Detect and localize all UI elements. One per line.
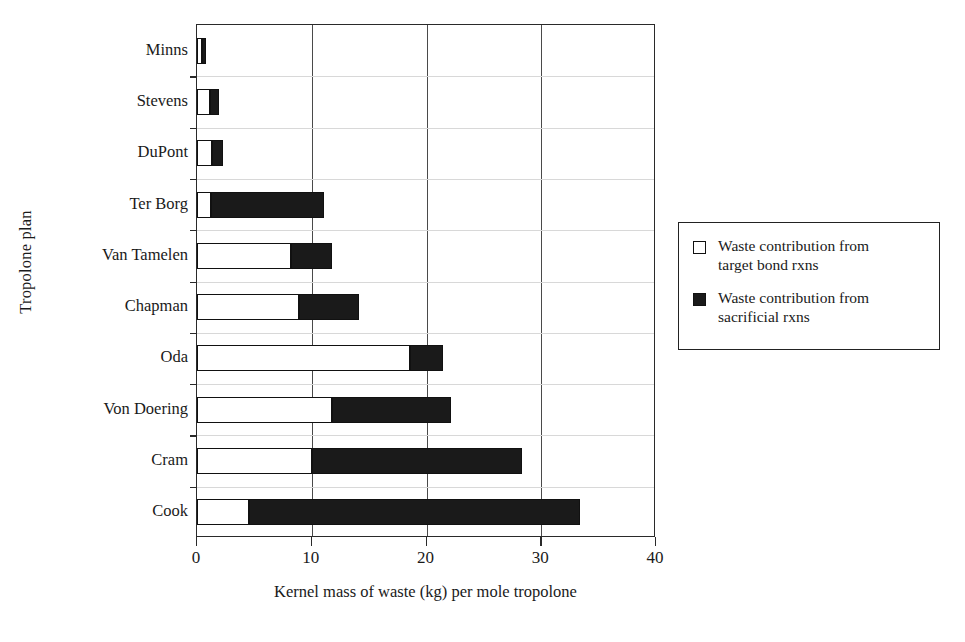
- bar-segment-target-bond: [197, 345, 410, 371]
- y-tick-minor: [190, 128, 197, 129]
- bar-segment-target-bond: [197, 89, 210, 115]
- bar-segment-target-bond: [197, 499, 249, 525]
- legend-label-target-bond: Waste contribution from target bond rxns: [718, 237, 869, 275]
- y-axis-label-von-doering: Von Doering: [60, 401, 188, 418]
- y-axis-label-cram: Cram: [60, 452, 188, 469]
- y-axis-label-van-tamelen: Van Tamelen: [60, 247, 188, 264]
- bar-segment-target-bond: [197, 140, 212, 166]
- category-separator: [197, 384, 654, 385]
- bar-segment-target-bond: [197, 243, 291, 269]
- legend-label-line1: Waste contribution from: [718, 237, 869, 254]
- x-tick-label-20: 20: [417, 548, 434, 568]
- y-tick-minor: [190, 487, 197, 488]
- x-tick-label-10: 10: [302, 548, 319, 568]
- bar-segment-target-bond: [197, 397, 332, 423]
- legend-item-target-bond: Waste contribution from target bond rxns: [679, 237, 939, 275]
- legend-label-line1: Waste contribution from: [718, 289, 869, 306]
- bar-segment-sacrificial: [410, 345, 442, 371]
- category-separator: [197, 435, 654, 436]
- y-axis-title: Tropolone plan: [16, 192, 36, 332]
- x-tick-40: [655, 537, 656, 546]
- x-tick-label-40: 40: [647, 548, 664, 568]
- y-axis-label-ter-borg: Ter Borg: [60, 195, 188, 212]
- x-tick-label-0: 0: [192, 548, 201, 568]
- chart-legend: Waste contribution from target bond rxns…: [678, 222, 940, 350]
- bar-segment-sacrificial: [211, 192, 325, 218]
- bar-segment-target-bond: [197, 448, 312, 474]
- bar-segment-sacrificial: [312, 448, 522, 474]
- category-separator: [197, 282, 654, 283]
- y-tick-minor: [190, 333, 197, 334]
- category-separator: [197, 333, 654, 334]
- y-tick-minor: [190, 435, 197, 436]
- open-square-icon: [693, 241, 706, 254]
- bar-segment-sacrificial: [202, 38, 207, 64]
- bar-segment-sacrificial: [212, 140, 223, 166]
- x-axis-tick-labels: 010203040: [196, 548, 655, 572]
- x-axis-title: Kernel mass of waste (kg) per mole tropo…: [196, 582, 655, 602]
- bar-segment-sacrificial: [249, 499, 581, 525]
- filled-square-icon: [693, 293, 706, 306]
- y-axis-tick-labels: MinnsStevensDuPontTer BorgVan TamelenCha…: [60, 24, 188, 537]
- y-tick-minor: [190, 179, 197, 180]
- bar-segment-sacrificial: [291, 243, 332, 269]
- category-separator: [197, 179, 654, 180]
- category-separator: [197, 76, 654, 77]
- bar-segment-sacrificial: [332, 397, 450, 423]
- legend-label-line2: target bond rxns: [718, 256, 869, 275]
- category-separator: [197, 230, 654, 231]
- legend-label-sacrificial: Waste contribution from sacrificial rxns: [718, 289, 869, 327]
- x-tick-20: [426, 537, 427, 546]
- plot-area: [196, 24, 655, 537]
- y-axis-label-cook: Cook: [60, 503, 188, 520]
- y-axis-label-minns: Minns: [60, 41, 188, 58]
- bar-chart-figure: Tropolone plan MinnsStevensDuPontTer Bor…: [0, 0, 965, 642]
- bar-segment-sacrificial: [299, 294, 359, 320]
- category-separator: [197, 487, 654, 488]
- y-tick-minor: [190, 76, 197, 77]
- y-tick-minor: [190, 282, 197, 283]
- bar-segment-sacrificial: [210, 89, 219, 115]
- y-axis-label-oda: Oda: [60, 349, 188, 366]
- y-axis-label-chapman: Chapman: [60, 298, 188, 315]
- page-bottom-edge: [0, 634, 965, 642]
- bar-segment-target-bond: [197, 192, 211, 218]
- category-separator: [197, 128, 654, 129]
- x-tick-10: [311, 537, 312, 546]
- bar-segment-target-bond: [197, 294, 299, 320]
- gridline-x-30: [541, 25, 542, 536]
- x-tick-30: [540, 537, 541, 546]
- x-tick-label-30: 30: [532, 548, 549, 568]
- y-axis-label-stevens: Stevens: [60, 93, 188, 110]
- y-axis-label-dupont: DuPont: [60, 144, 188, 161]
- y-tick-minor: [190, 384, 197, 385]
- legend-label-line2: sacrificial rxns: [718, 308, 869, 327]
- x-tick-0: [196, 537, 197, 546]
- legend-item-sacrificial: Waste contribution from sacrificial rxns: [679, 289, 939, 327]
- y-tick-minor: [190, 230, 197, 231]
